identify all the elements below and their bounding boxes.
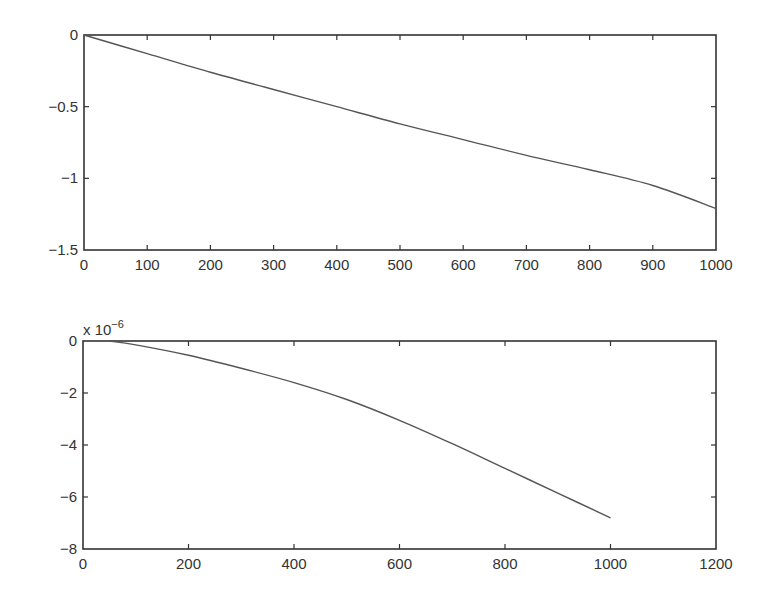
x-tick-label: 200 xyxy=(176,555,201,572)
y-tick-label: −1 xyxy=(61,169,78,186)
x-tick-label: 1000 xyxy=(699,256,732,273)
y-tick-label: −1.5 xyxy=(48,241,78,258)
x-tick-label: 600 xyxy=(451,256,476,273)
x-tick-label: 700 xyxy=(514,256,539,273)
x-tick-label: 300 xyxy=(261,256,286,273)
series-line xyxy=(84,35,716,208)
y-tick-label: 0 xyxy=(70,26,78,43)
x-tick-label: 100 xyxy=(135,256,160,273)
x-tick-label: 0 xyxy=(79,555,87,572)
y-tick-label: −8 xyxy=(60,540,77,557)
y-tick-label: −6 xyxy=(60,488,77,505)
x-tick-label: 600 xyxy=(387,555,412,572)
x-tick-label: 0 xyxy=(80,256,88,273)
y-tick-label: −4 xyxy=(60,436,77,453)
y-tick-label: 0 xyxy=(69,332,77,349)
x-tick-label: 800 xyxy=(492,555,517,572)
x-tick-label: 900 xyxy=(640,256,665,273)
figure: 010020030040050060070080090010000−0.5−1−… xyxy=(0,0,774,595)
x-tick-label: 800 xyxy=(577,256,602,273)
x-tick-label: 400 xyxy=(324,256,349,273)
series-line xyxy=(109,341,610,518)
x-tick-label: 1000 xyxy=(594,555,627,572)
bottom-plot: 0200400600800100012000−2−4−6−8x 10−6 xyxy=(60,318,733,572)
x-tick-label: 200 xyxy=(198,256,223,273)
x-tick-label: 400 xyxy=(281,555,306,572)
x-tick-label: 1200 xyxy=(699,555,732,572)
top-plot: 010020030040050060070080090010000−0.5−1−… xyxy=(48,26,732,273)
x-tick-label: 500 xyxy=(387,256,412,273)
y-tick-label: −0.5 xyxy=(48,98,78,115)
y-scale-multiplier: x 10−6 xyxy=(83,318,124,338)
axes-frame xyxy=(84,35,716,250)
axes-frame xyxy=(83,341,716,549)
y-tick-label: −2 xyxy=(60,384,77,401)
